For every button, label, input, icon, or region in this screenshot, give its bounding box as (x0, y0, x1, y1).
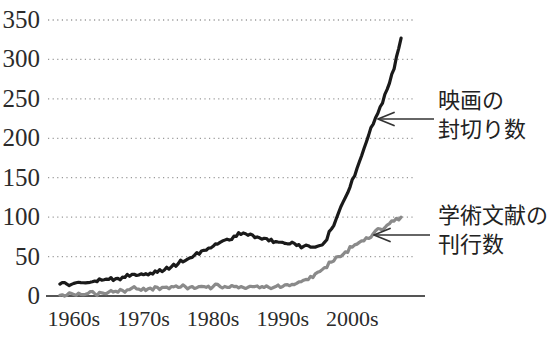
gridlines (48, 20, 415, 257)
y-tick-label-50: 50 (0, 244, 40, 269)
y-tick-label-150: 150 (0, 165, 40, 190)
movie-annotation-line-2: 封切り数 (438, 115, 526, 144)
y-tick-label-0: 0 (0, 283, 40, 308)
y-tick-label-200: 200 (0, 125, 40, 150)
x-tick-label-2000s: 2000s (307, 308, 397, 330)
series-line-academic-publications (60, 217, 401, 296)
annotation-arrows (374, 113, 434, 242)
y-tick-label-300: 300 (0, 46, 40, 71)
y-tick-label-100: 100 (0, 204, 40, 229)
academic-publications-annotation: 学術文献の 刊行数 (438, 201, 548, 259)
y-tick-label-350: 350 (0, 7, 40, 32)
data-series-group (60, 38, 401, 296)
academic-annotation-line-2: 刊行数 (438, 230, 548, 259)
academic-annotation-line-1: 学術文献の (438, 201, 548, 230)
y-tick-label-250: 250 (0, 86, 40, 111)
movie-releases-annotation: 映画の 封切り数 (438, 86, 526, 144)
movie-annotation-line-1: 映画の (438, 86, 526, 115)
